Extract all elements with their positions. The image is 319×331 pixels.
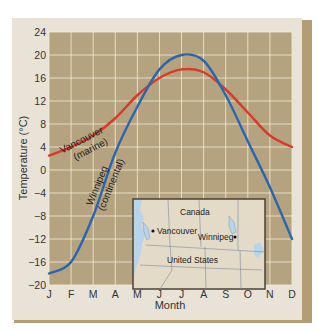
y-tick-label: 0	[40, 164, 46, 176]
x-tick-label: M	[89, 288, 98, 300]
map-label-winnipeg: Winnipeg	[198, 232, 234, 242]
x-tick-label: D	[288, 288, 296, 300]
y-tick-label: −8	[34, 210, 46, 222]
map-label-canada: Canada	[180, 207, 210, 217]
y-tick-label: 24	[34, 26, 46, 38]
x-tick-label: A	[112, 288, 119, 300]
map-label-vancouver: Vancouver	[157, 226, 197, 236]
y-tick-label: −4	[34, 187, 46, 199]
x-tick-label: O	[244, 288, 252, 300]
chart-figure: 24201612840−4−8−12−16−20 JFMAMJJASOND Te…	[0, 0, 319, 331]
x-axis-label: Month	[155, 299, 186, 311]
y-tick-label: 12	[34, 95, 46, 107]
temperature-chart: 24201612840−4−8−12−16−20 JFMAMJJASOND Te…	[0, 0, 319, 331]
y-tick-label: 20	[34, 49, 46, 61]
x-tick-label: N	[266, 288, 274, 300]
y-tick-label: −16	[28, 256, 46, 268]
y-tick-label: 16	[34, 72, 46, 84]
y-tick-label: −20	[28, 279, 46, 291]
vancouver-marker	[151, 229, 154, 232]
winnipeg-marker	[233, 235, 236, 238]
y-axis-label: Temperature (°C)	[17, 116, 29, 200]
y-tick-label: −12	[28, 233, 46, 245]
x-tick-label: A	[200, 288, 207, 300]
y-tick-label: 4	[40, 141, 46, 153]
x-tick-label: S	[222, 288, 229, 300]
inset-map: Canada Vancouver Winnipeg United States	[133, 199, 265, 289]
y-tick-label: 8	[40, 118, 46, 130]
x-tick-label: F	[68, 288, 74, 300]
map-label-united-states: United States	[167, 255, 218, 265]
x-tick-label: M	[133, 288, 142, 300]
x-tick-label: J	[46, 288, 51, 300]
